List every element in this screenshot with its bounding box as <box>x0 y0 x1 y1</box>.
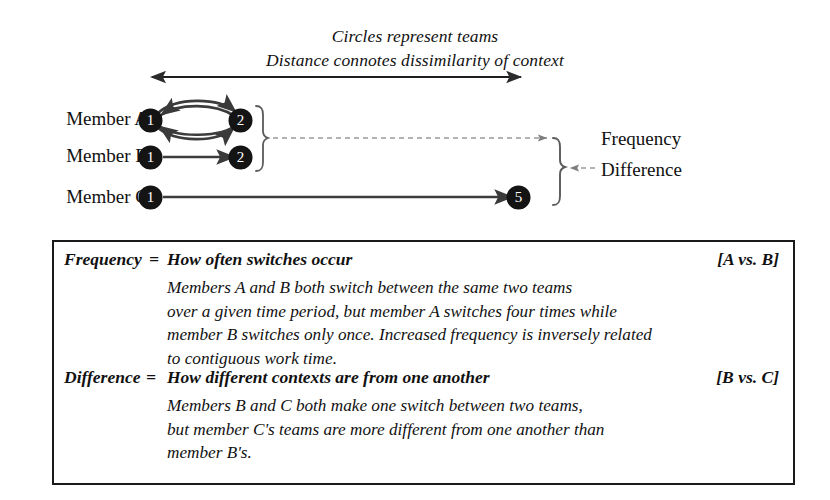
definition-frequency-body: Members A and B both switch between the … <box>167 276 767 370</box>
node-member-a-team-2: 2 <box>229 109 252 132</box>
node-member-c-team-1: 1 <box>139 186 162 209</box>
definition-frequency-equals: = <box>149 249 159 270</box>
member-a-switch-arrows <box>157 101 238 139</box>
definition-difference-equals: = <box>146 367 156 388</box>
definition-frequency-description: How often switches occur <box>167 249 352 270</box>
definition-frequency-body-line: over a given time period, but member A s… <box>167 300 767 324</box>
definition-frequency: Frequency = How often switches occur [A … <box>54 249 793 370</box>
node-member-a-team-1: 1 <box>139 109 162 132</box>
node-member-b-team-1: 1 <box>139 146 162 169</box>
definition-difference-body: Members B and C both make one switch bet… <box>167 394 767 465</box>
definition-difference-term: Difference <box>64 367 140 388</box>
definition-difference-body-line: Members B and C both make one switch bet… <box>167 394 767 418</box>
figure-root: Circles represent teams Distance connote… <box>0 0 830 500</box>
definition-frequency-head: Frequency = How often switches occur [A … <box>54 249 793 274</box>
callout-label-difference: Difference <box>601 159 682 181</box>
definition-difference-body-line: but member C's teams are more different … <box>167 418 767 442</box>
member-a-label: Member A <box>18 108 148 130</box>
member-b-label: Member B <box>18 145 148 167</box>
definition-frequency-body-line: Members A and B both switch between the … <box>167 276 767 300</box>
definition-frequency-body-line: member B switches only once. Increased f… <box>167 323 767 347</box>
callout-label-frequency: Frequency <box>601 128 681 150</box>
definitions-box: Frequency = How often switches occur [A … <box>52 240 795 485</box>
outer-brace-members-b-c <box>553 138 565 205</box>
definition-difference-head: Difference = How different contexts are … <box>54 367 793 392</box>
definition-difference: Difference = How different contexts are … <box>54 367 793 465</box>
definition-frequency-comparison: [A vs. B] <box>717 249 779 270</box>
member-c-label: Member C <box>18 186 148 208</box>
definition-difference-comparison: [B vs. C] <box>716 367 779 388</box>
definition-difference-description: How different contexts are from one anot… <box>167 367 489 388</box>
inner-brace-members-a-b <box>256 106 268 171</box>
node-member-c-team-5: 5 <box>507 186 530 209</box>
definition-difference-body-line: member B's. <box>167 441 767 465</box>
node-member-b-team-2: 2 <box>229 146 252 169</box>
definition-frequency-term: Frequency <box>64 249 142 270</box>
